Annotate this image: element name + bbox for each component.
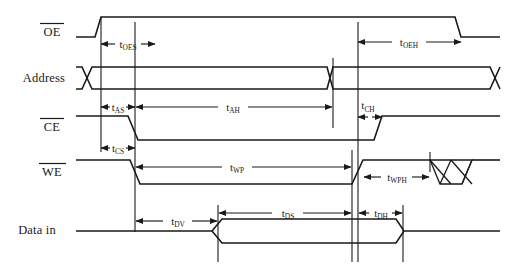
dimension-t-oeh: tOEH [358, 36, 461, 51]
waveform-we [76, 160, 500, 184]
dimension-label-t-dh: tDH [374, 207, 388, 222]
dimension-t-ch: tCH [358, 99, 382, 117]
waveform-we-path [76, 160, 430, 184]
hatch-stroke-4 [462, 160, 472, 184]
dimension-t-wp: tWP [136, 161, 351, 176]
waveform-oe [76, 17, 500, 37]
dimension-label-t-oes: tOES [119, 38, 136, 53]
dimension-label-t-as: tAS [112, 101, 125, 116]
waveform-address [76, 67, 500, 89]
waveform-data-in [76, 219, 500, 243]
signal-label-data-in: Data in [18, 223, 56, 237]
signal-label-ce: CE [40, 119, 64, 135]
waveform-ce-path [76, 116, 500, 140]
hatch-stroke-2 [451, 160, 472, 184]
dimension-label-t-dv: tDV [171, 215, 185, 230]
dimension-label-t-cs: tCS [112, 142, 124, 157]
waveform-oe-path [76, 17, 500, 37]
dont-care-region-we [430, 160, 472, 184]
waveform-ce [76, 116, 500, 140]
dimension-label-t-wph: tWPH [387, 171, 407, 186]
dimension-t-cs: tCS [101, 142, 135, 157]
dimension-t-ah: tAH [136, 101, 332, 116]
signal-label-group: OE Address CE WE Data in [18, 24, 66, 238]
signal-label-address-text: Address [23, 71, 65, 85]
signal-label-ce-text: CE [44, 120, 61, 134]
dimension-label-t-oeh: tOEH [400, 36, 419, 51]
signal-label-oe-text: OE [43, 25, 60, 39]
waveform-data-in-lower [212, 231, 404, 243]
signal-label-oe: OE [40, 24, 64, 40]
timing-diagram-canvas: OE Address CE WE Data in [0, 0, 517, 271]
hatch-stroke-3 [440, 160, 451, 184]
dimension-label-t-ch: tCH [361, 99, 375, 114]
dimension-t-oes: tOES [101, 38, 155, 53]
dimension-t-dv: tDV [136, 215, 217, 230]
dimension-label-t-ah: tAH [226, 101, 240, 116]
signal-label-we: WE [39, 164, 66, 180]
signal-label-address: Address [23, 71, 65, 85]
hatch-stroke-1 [430, 160, 451, 184]
dimension-label-t-wp: tWP [230, 161, 244, 176]
dont-care-outline [430, 160, 472, 184]
signal-label-we-text: WE [42, 165, 62, 179]
dimension-t-as: tAS [101, 101, 135, 116]
dimension-t-wph: tWPH [364, 171, 429, 186]
timing-diagram-root: OE Address CE WE Data in [0, 0, 517, 271]
waveform-address-lower [76, 67, 500, 89]
waveform-address-upper [76, 67, 500, 89]
signal-label-data-in-text: Data in [18, 223, 56, 237]
